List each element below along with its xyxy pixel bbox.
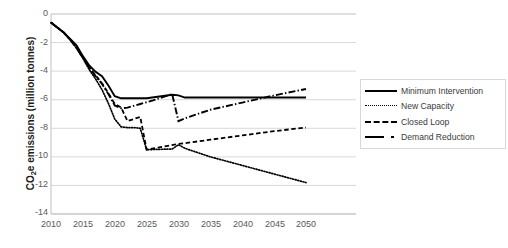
legend-label: New Capacity: [401, 101, 454, 111]
legend-key-dotted-icon: [364, 100, 398, 112]
chart-legend: Minimum Intervention New Capacity Closed…: [360, 79, 506, 149]
y-tick-label: -8: [22, 123, 48, 132]
y-tick-label: -4: [22, 66, 48, 75]
y-tick-label: -14: [22, 208, 48, 217]
x-tick-label: 2015: [67, 219, 99, 229]
legend-label: Demand Reduction: [401, 132, 475, 142]
legend-key-dashdot-icon: [364, 131, 398, 143]
legend-item-demand-reduction: Demand Reduction: [364, 130, 503, 146]
x-tick-label: 2035: [195, 219, 227, 229]
legend-item-closed-loop: Closed Loop: [364, 114, 503, 130]
x-tick-label: 2010: [35, 219, 67, 229]
x-tick-label: 2050: [290, 219, 322, 229]
x-tick-label: 2020: [99, 219, 131, 229]
axis-lines: [51, 14, 356, 214]
legend-item-minimum-intervention: Minimum Intervention: [364, 83, 503, 99]
y-tick-label: -2: [22, 38, 48, 47]
series-lines: [51, 23, 306, 183]
x-tick-label: 2045: [259, 219, 291, 229]
x-tick-label: 2025: [131, 219, 163, 229]
legend-key-dashed-icon: [364, 116, 398, 128]
x-tick-label: 2040: [227, 219, 259, 229]
y-axis-ticks: 0 -2 -4 -6 -8 -10 -12 -14: [18, 0, 48, 248]
y-tick-label: -12: [22, 180, 48, 189]
legend-label: Closed Loop: [401, 117, 449, 127]
series-line-demand-reduction: [51, 23, 306, 122]
y-tick-label: -6: [22, 94, 48, 103]
x-tick-label: 2030: [163, 219, 195, 229]
y-tick-label: -10: [22, 151, 48, 160]
series-line-minimum-intervention: [51, 23, 306, 99]
series-line-new-capacity: [51, 23, 306, 183]
y-tick-label: 0: [22, 9, 48, 18]
grid-lines: [51, 14, 356, 214]
legend-label: Minimum Intervention: [401, 86, 483, 96]
chart-container: CO2e emissions (million tonnes) 0 -2 -4 …: [0, 0, 508, 248]
legend-key-solid-icon: [364, 85, 398, 97]
legend-item-new-capacity: New Capacity: [364, 99, 503, 115]
series-line-closed-loop: [51, 23, 306, 150]
